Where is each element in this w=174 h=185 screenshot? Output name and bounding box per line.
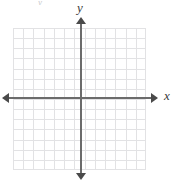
x-axis-label: x: [164, 89, 170, 102]
x-axis-left-arrow-icon: [2, 93, 9, 103]
x-axis-right-arrow-icon: [151, 93, 158, 103]
y-axis-label: y: [77, 1, 83, 14]
grid-right-edge: [145, 28, 146, 170]
y-axis-up-arrow-icon: [76, 17, 86, 24]
y-axis-down-arrow-icon: [76, 173, 86, 180]
coordinate-plane-figure: y y x: [0, 0, 174, 185]
y-axis-line: [80, 23, 82, 177]
cropped-text-artifact: y: [38, 0, 47, 5]
